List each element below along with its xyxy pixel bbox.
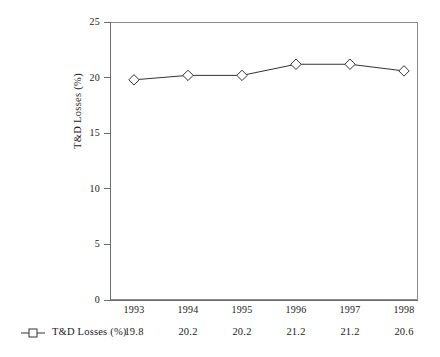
y-axis-tick-label: 25 (60, 17, 100, 27)
y-axis-tick (104, 244, 110, 245)
y-axis-tick (104, 133, 110, 134)
x-axis-tick-label: 1994 (165, 304, 211, 316)
legend-marker-icon (20, 327, 46, 339)
chart-container: T&D Losses (%) 0510152025 19931994199519… (0, 0, 440, 357)
y-axis-tick-label: 15 (60, 128, 100, 138)
y-axis-tick-label: 0 (60, 295, 100, 305)
legend-data-value: 19.8 (111, 325, 157, 339)
x-axis-line (110, 300, 418, 301)
x-axis-tick-label: 1997 (327, 304, 373, 316)
x-axis-tick-label: 1998 (381, 304, 427, 316)
plot-area-frame (110, 22, 418, 300)
x-axis-tick-label: 1996 (273, 304, 319, 316)
y-axis-line (110, 22, 111, 301)
legend-data-value: 21.2 (273, 325, 319, 339)
legend-data-value: 21.2 (327, 325, 373, 339)
y-axis-tick-label: 20 (60, 73, 100, 83)
y-axis-tick (104, 188, 110, 189)
legend-data-value: 20.2 (165, 325, 211, 339)
y-axis-title: T&D Losses (%) (72, 46, 84, 176)
y-axis-tick (104, 300, 110, 301)
x-axis-tick-label: 1995 (219, 304, 265, 316)
y-axis-tick-label: 10 (60, 184, 100, 194)
y-axis-tick (104, 22, 110, 23)
legend-row: T&D Losses (%) 19.820.220.221.221.220.6 (0, 324, 440, 342)
legend-data-value: 20.6 (381, 325, 427, 339)
y-axis-tick (104, 77, 110, 78)
y-axis-tick-label: 5 (60, 239, 100, 249)
legend-data-value: 20.2 (219, 325, 265, 339)
x-axis-tick-label: 1993 (111, 304, 157, 316)
